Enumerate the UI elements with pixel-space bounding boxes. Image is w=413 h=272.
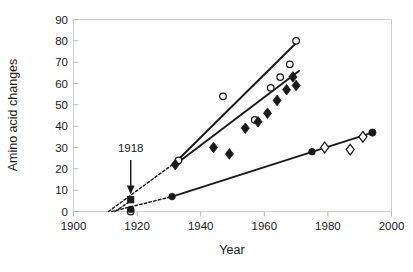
amino-acid-changes-scatter-chart: 0 10 20 30 40 50 60 70 80 90 1900 1920 1… [0,0,413,272]
y-tick-40: 40 [55,120,68,132]
x-tick-2000: 2000 [379,220,405,232]
y-tick-30: 30 [55,142,68,154]
x-tick-1960: 1960 [252,220,278,232]
y-tick-90: 90 [55,14,68,26]
x-axis-title: Year [219,243,244,257]
y-axis-title: Amino acid changes [6,59,20,172]
annotation-1918-label: 1918 [118,142,144,154]
y-tick-20: 20 [55,163,68,175]
y-tick-10: 10 [55,184,68,196]
y-tick-50: 50 [55,99,68,111]
marker-1918-upper [128,197,134,203]
x-tick-1920: 1920 [124,220,150,232]
y-tick-60: 60 [55,78,68,90]
x-tick-1980: 1980 [315,220,341,232]
y-tick-80: 80 [55,35,68,47]
y-tick-0: 0 [62,206,68,218]
y-tick-70: 70 [55,56,68,68]
x-tick-1900: 1900 [61,220,87,232]
x-tick-1940: 1940 [188,220,214,232]
